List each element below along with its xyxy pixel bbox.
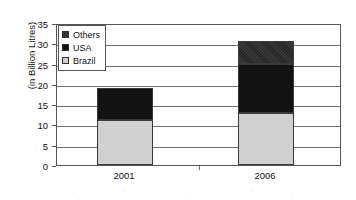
gridline-20 (57, 86, 340, 87)
bar-2001-segment-usa (97, 88, 153, 120)
y-tick-mark-10 (52, 125, 56, 126)
y-tick-mark-0 (52, 166, 56, 167)
y-tick-label-0: 0 (8, 161, 48, 172)
y-tick-label-25: 25 (8, 59, 48, 70)
x-tick-mark-mid (199, 166, 200, 170)
legend-item-brazil[interactable]: Brazil (62, 54, 100, 67)
stacked-bar-chart: (in Billion Litres) 35 30 25 20 15 10 5 … (0, 0, 356, 200)
legend-item-others[interactable]: Others (62, 28, 100, 41)
y-tick-mark-25 (52, 65, 56, 66)
x-tick-label-2001: 2001 (113, 170, 134, 181)
brazil-gray-swatch (62, 57, 69, 64)
bar-2006-segment-brazil (238, 113, 294, 165)
bar-2006-segment-others (238, 41, 294, 63)
y-tick-label-35: 35 (8, 19, 48, 30)
bar-2006-segment-usa (238, 64, 294, 114)
chart-legend: Others USA Brazil (58, 25, 106, 71)
usa-black-swatch (62, 44, 69, 51)
legend-label-brazil: Brazil (73, 56, 96, 66)
y-tick-label-5: 5 (8, 140, 48, 151)
y-tick-mark-20 (52, 85, 56, 86)
y-tick-mark-35 (52, 24, 56, 25)
others-pattern-swatch (62, 31, 69, 38)
bar-2001[interactable] (97, 88, 153, 165)
legend-item-usa[interactable]: USA (62, 41, 100, 54)
y-tick-mark-15 (52, 105, 56, 106)
legend-label-others: Others (73, 30, 100, 40)
bar-2006[interactable] (238, 41, 294, 165)
y-tick-mark-5 (52, 146, 56, 147)
y-tick-label-15: 15 (8, 100, 48, 111)
legend-label-usa: USA (73, 43, 92, 53)
y-tick-mark-30 (52, 44, 56, 45)
scan-artifact (40, 188, 320, 196)
y-tick-label-10: 10 (8, 120, 48, 131)
y-tick-label-20: 20 (8, 79, 48, 90)
bar-2001-segment-brazil (97, 120, 153, 165)
y-tick-label-30: 30 (8, 39, 48, 50)
x-tick-label-2006: 2006 (254, 170, 275, 181)
